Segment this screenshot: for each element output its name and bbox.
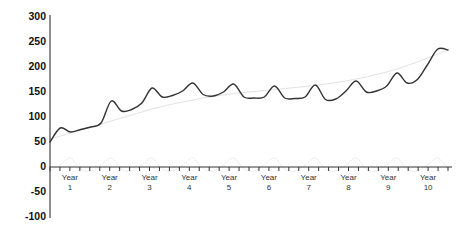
x-axis-tick-label-line2: 10: [405, 183, 451, 193]
x-axis-tick-labels: Year1Year2Year3Year4Year5Year6Year7Year8…: [0, 0, 458, 240]
x-axis-tick-label-year-10: Year10: [405, 173, 451, 193]
chart-container: 300250200150100500-50-100 Year1Year2Year…: [0, 0, 458, 240]
x-axis-tick-label-line1: Year: [405, 173, 451, 183]
